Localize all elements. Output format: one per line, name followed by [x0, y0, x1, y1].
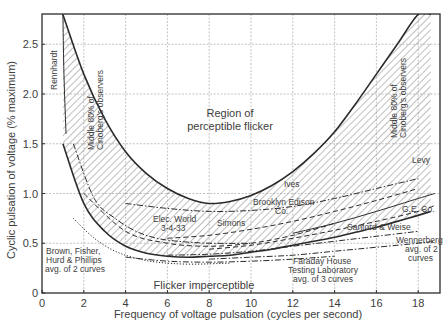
y-tick-label: 2.5: [23, 38, 38, 50]
y-tick-label: 1.0: [23, 188, 38, 200]
annotation-elec-world-2: 3-4-33: [161, 223, 186, 233]
annotation-faraday-3: avg. of 3 curves: [293, 274, 353, 284]
x-tick-label: 16: [370, 297, 382, 309]
x-tick-label: 18: [412, 297, 424, 309]
y-tick-label: 1.5: [23, 138, 38, 150]
y-tick-label: 2.0: [23, 88, 38, 100]
y-tick-label: 0: [32, 287, 38, 299]
annotation-brooklyn-2: Co.: [275, 206, 288, 216]
y-tick-label: 0.5: [23, 237, 38, 249]
annotation-ge: G.E. Co.: [402, 204, 435, 214]
annotation-band-right-2: Cinoberg's observers: [398, 58, 408, 138]
y-axis-label: Cyclic pulsation of voltage (% maximum): [5, 61, 17, 259]
annotation-brown-3: avg. of 2 curves: [45, 264, 105, 274]
region-perceptible-label-2: perceptible flicker: [187, 120, 273, 132]
annotation-rennhardt: Rennhardt: [49, 50, 59, 90]
x-tick-label: 2: [81, 297, 87, 309]
band-middle-80: [63, 12, 431, 257]
x-axis-label: Frequency of voltage pulsation (cycles p…: [114, 308, 362, 320]
annotation-ives: Ives: [284, 179, 300, 189]
annotation-levy: Levy: [412, 155, 431, 165]
annotation-sanford: Sanford & Weise: [347, 222, 411, 232]
flicker-chart: 024681012141618 00.51.01.52.02.5 Frequen…: [0, 0, 448, 331]
annotation-band-left-2: Cinoberg's observers: [95, 70, 105, 150]
region-perceptible-label: Region of: [206, 107, 254, 119]
region-imperceptible-label: Flicker imperceptible: [154, 279, 255, 291]
x-tick-label: 0: [39, 297, 45, 309]
annotation-simons: Simons: [217, 218, 245, 228]
annotation-wennerberg-3: curves: [408, 253, 433, 263]
